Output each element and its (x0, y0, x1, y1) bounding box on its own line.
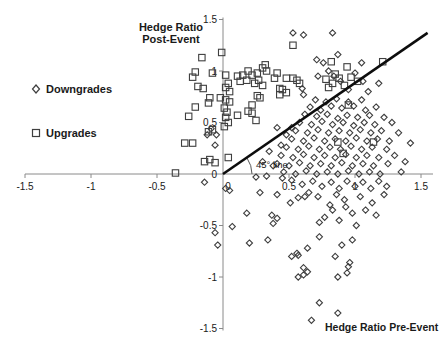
downgrade-point (360, 179, 366, 185)
downgrade-point (244, 210, 250, 216)
downgrade-point (328, 163, 334, 169)
downgrade-point (308, 121, 314, 127)
downgrade-point (370, 163, 376, 169)
downgrade-point (336, 128, 342, 134)
downgrade-point (300, 32, 306, 38)
downgrade-point (246, 240, 252, 246)
downgrade-point (278, 152, 284, 158)
downgrade-point (318, 161, 324, 167)
downgrade-point (353, 154, 359, 160)
downgrade-point (306, 143, 312, 149)
legend-label-upgrades: Upgrades (46, 127, 97, 139)
downgrade-point (308, 317, 314, 323)
downgrade-point (322, 214, 328, 220)
downgrade-point (349, 237, 355, 243)
downgrade-point (295, 146, 301, 152)
upgrade-point (328, 59, 334, 65)
upgrade-point (226, 88, 232, 94)
downgrade-point (351, 122, 357, 128)
downgrade-point (312, 97, 318, 103)
downgrade-point (270, 220, 276, 226)
upgrade-point (249, 110, 255, 116)
legend: Downgrades Upgrades (30, 82, 112, 170)
downgrade-point (335, 274, 341, 280)
downgrade-point (339, 160, 345, 166)
downgrade-point (341, 197, 347, 203)
downgrade-point (376, 80, 382, 86)
downgrade-point (344, 112, 350, 118)
downgrade-point (372, 121, 378, 127)
downgrade-point (332, 253, 338, 259)
downgrade-point (362, 107, 368, 113)
upgrade-point (344, 64, 350, 70)
downgrade-point (345, 168, 351, 174)
downgrade-point (384, 183, 390, 189)
downgrade-point (357, 127, 363, 133)
downgrade-point (311, 135, 317, 141)
upgrade-point (290, 42, 296, 48)
downgrade-point (314, 113, 320, 119)
upgrade-point (185, 113, 191, 119)
downgrade-point (389, 119, 395, 125)
x-tick-label: -0.5 (148, 181, 166, 192)
downgrade-point (319, 183, 325, 189)
upgrade-point (221, 105, 227, 111)
downgrade-point (339, 105, 345, 111)
downgrade-point (315, 127, 321, 133)
downgrade-point (290, 30, 296, 36)
x-axis-title: Hedge Ratio Pre-Event (325, 321, 438, 333)
downgrade-point (324, 111, 330, 117)
downgrade-point (300, 151, 306, 157)
downgrade-point (253, 174, 259, 180)
downgrade-point (335, 51, 341, 57)
downgrade-point (307, 163, 313, 169)
downgrade-point (336, 185, 342, 191)
downgrade-point (378, 128, 384, 134)
downgrade-point (368, 185, 374, 191)
downgrade-point (300, 138, 306, 144)
downgrade-point (215, 242, 221, 248)
upgrade-point (325, 84, 331, 90)
downgrade-point (384, 146, 390, 152)
downgrade-point (257, 189, 263, 195)
downgrade-point (353, 135, 359, 141)
downgrade-point (337, 146, 343, 152)
downgrade-point (201, 179, 207, 185)
downgrade-point (376, 178, 382, 184)
downgrade-point (322, 152, 328, 158)
downgrade-point (340, 119, 346, 125)
square-icon (30, 127, 42, 139)
y-tick-label: -1 (208, 272, 217, 283)
downgrade-point (360, 161, 366, 167)
downgrade-point (381, 114, 387, 120)
legend-item-downgrades: Downgrades (30, 82, 112, 96)
upgrade-point (218, 49, 224, 55)
downgrade-point (373, 104, 379, 110)
downgrade-point (316, 300, 322, 306)
downgrade-point (326, 130, 332, 136)
upgrade-point (249, 102, 255, 108)
x-tick-label: -1.5 (16, 181, 34, 192)
downgrade-point (368, 130, 374, 136)
downgrade-point (328, 103, 334, 109)
downgrade-point (335, 310, 341, 316)
legend-label-downgrades: Downgrades (46, 83, 112, 95)
downgrade-point (353, 222, 359, 228)
45-degree-line-label: 45° line (256, 159, 288, 170)
upgrade-point (254, 93, 260, 99)
y-tick-label: 0 (211, 169, 217, 180)
downgrade-point (303, 168, 309, 174)
hedge-ratio-scatter-chart: -1.5-1-0.500.511.5-1.5-1-0.500.511.5 Hed… (0, 0, 446, 345)
downgrade-point (327, 144, 333, 150)
downgrade-point (407, 140, 413, 146)
upgrade-point (189, 140, 195, 146)
downgrade-point (362, 207, 368, 213)
upgrade-point (329, 80, 335, 86)
upgrade-point (172, 170, 178, 176)
downgrade-point (355, 114, 361, 120)
downgrade-point (274, 192, 280, 198)
downgrade-point (343, 204, 349, 210)
x-tick-label: 1.5 (414, 181, 428, 192)
downgrade-point (326, 68, 332, 74)
diamond-icon (30, 83, 42, 95)
